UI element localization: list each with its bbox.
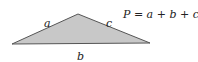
side-label-c: c xyxy=(106,17,112,30)
side-label-a: a xyxy=(44,17,51,30)
perimeter-formula: P = a + b + c xyxy=(122,8,198,21)
triangle-diagram: a c b P = a + b + c xyxy=(0,0,198,62)
side-label-b: b xyxy=(77,50,84,62)
